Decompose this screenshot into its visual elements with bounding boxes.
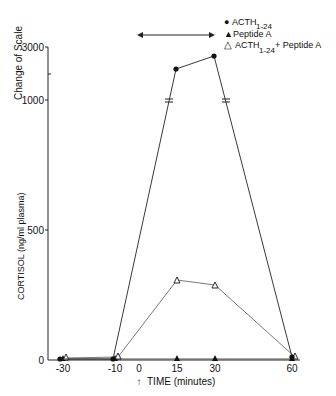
svg-text:Peptide A: Peptide A — [233, 29, 272, 39]
y-label-0: 0 — [38, 355, 44, 366]
legend: ● ACTH 1-24 ▲ Peptide A △ ACTH 1-24 + Pe… — [224, 17, 321, 55]
filled-circle-icon: ● — [224, 17, 229, 27]
filled-triangle-icon: ▲ — [224, 29, 233, 39]
y-axis-title: CORTISOL (ng/ml plasma) — [16, 192, 26, 300]
legend-item-peptide-a: ▲ Peptide A — [224, 29, 272, 39]
cortisol-chart: 3000 1000 500 0 CORTISOL (ng/ml plasma) … — [0, 0, 336, 396]
open-triangle-icon: △ — [224, 39, 232, 50]
y-label-1000: 1000 — [22, 95, 45, 106]
svg-text:1-24: 1-24 — [259, 46, 276, 55]
svg-text:ACTH: ACTH — [235, 40, 260, 50]
x-label-0: 0 — [136, 363, 142, 374]
x-axis-title: TIME (minutes) — [147, 376, 215, 387]
x-label-15: 15 — [171, 363, 183, 374]
svg-text:+ Peptide A: + Peptide A — [275, 40, 321, 50]
legend-item-acth-plus-peptide-a: △ ACTH 1-24 + Peptide A — [224, 39, 321, 55]
series-acth-1-24 — [57, 53, 294, 361]
svg-text:ACTH: ACTH — [232, 17, 257, 27]
change-of-scale-label: Change of Scale — [13, 26, 24, 100]
x-label-neg10: -10 — [108, 363, 123, 374]
series-acth-plus-peptide-a — [63, 277, 298, 360]
x-label-60: 60 — [286, 363, 298, 374]
x-label-30: 30 — [209, 363, 221, 374]
y-label-3000: 3000 — [22, 42, 45, 53]
y-label-500: 500 — [27, 225, 44, 236]
infusion-period-arrow — [137, 32, 215, 38]
injection-arrow-icon: ↑ — [137, 376, 142, 387]
x-label-neg30: -30 — [56, 363, 71, 374]
